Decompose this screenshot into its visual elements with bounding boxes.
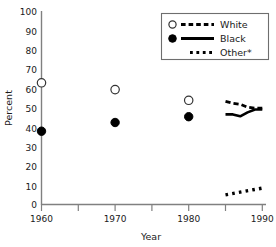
- y-tick-label: 50: [26, 104, 38, 114]
- series-black-segment: [226, 110, 263, 117]
- legend-label-other: Other*: [220, 47, 252, 58]
- x-tick-label: 1960: [30, 214, 53, 224]
- data-point-black-1970: [111, 118, 119, 126]
- line-chart-svg: 100 90 80 70 60 50 40 30 20 10 0 1960 19…: [0, 0, 276, 247]
- data-point-white-1960: [37, 79, 45, 87]
- y-tick-labels: 100 90 80 70 60 50 40 30 20 10 0: [20, 7, 37, 210]
- x-axis-title: Year: [140, 231, 161, 242]
- y-tick-label: 100: [20, 7, 37, 17]
- y-tick-label: 60: [26, 85, 38, 95]
- data-point-white-1970: [111, 85, 119, 93]
- series-white-markers: [37, 79, 193, 105]
- series-black-markers: [37, 113, 193, 136]
- y-tick-label: 20: [26, 162, 38, 172]
- y-tick-label: 10: [26, 182, 38, 192]
- x-tick-marks: [42, 205, 263, 212]
- y-tick-label: 40: [26, 124, 38, 134]
- legend: White Black Other*: [162, 14, 269, 60]
- x-tick-label: 1980: [177, 214, 200, 224]
- y-tick-label: 80: [26, 46, 38, 56]
- chart-figure: 100 90 80 70 60 50 40 30 20 10 0 1960 19…: [0, 0, 276, 247]
- x-tick-label: 1990: [251, 214, 274, 224]
- filled-circle-icon: [169, 35, 177, 43]
- y-axis-title: Percent: [3, 90, 14, 126]
- series-other-segment: [226, 188, 263, 195]
- legend-label-white: White: [220, 19, 248, 30]
- legend-box: [162, 14, 269, 60]
- series-white-segment: [226, 101, 263, 108]
- y-tick-label: 0: [31, 200, 37, 210]
- x-tick-labels: 1960 1970 1980 1990: [30, 214, 274, 224]
- data-point-black-1960: [37, 127, 45, 135]
- y-tick-label: 30: [26, 143, 38, 153]
- data-point-white-1980: [185, 96, 193, 104]
- x-tick-label: 1970: [104, 214, 127, 224]
- data-point-black-1980: [185, 113, 193, 121]
- legend-label-black: Black: [220, 33, 246, 44]
- open-circle-icon: [169, 21, 176, 28]
- y-tick-label: 90: [26, 27, 38, 37]
- y-tick-label: 70: [26, 65, 38, 75]
